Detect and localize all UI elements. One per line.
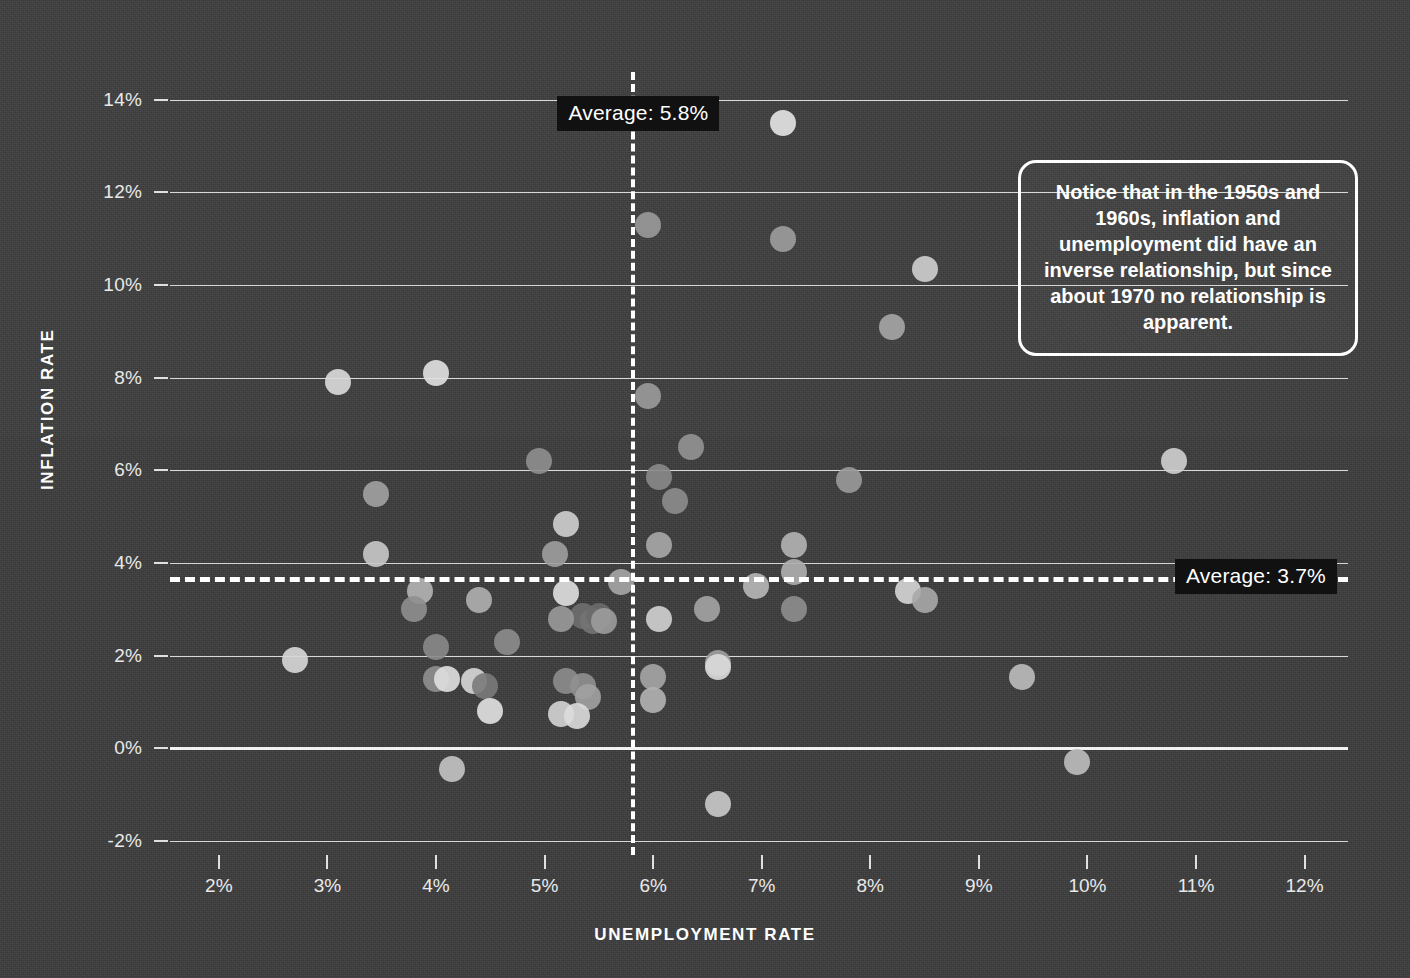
x-tick-mark: [544, 855, 546, 869]
data-point: [705, 791, 731, 817]
data-point: [526, 448, 552, 474]
unemployment-average-line: [631, 72, 635, 855]
data-point: [635, 212, 661, 238]
data-point: [548, 606, 574, 632]
data-point: [836, 467, 862, 493]
x-axis-tick-label: 8%: [857, 875, 884, 897]
data-point: [477, 698, 503, 724]
data-point: [363, 481, 389, 507]
inflation-average-label: Average: 3.7%: [1175, 559, 1337, 594]
x-axis-tick-label: 12%: [1286, 875, 1324, 897]
x-tick-mark: [652, 855, 654, 869]
y-tick-mark: [154, 99, 168, 101]
x-axis-tick-label: 9%: [965, 875, 992, 897]
annotation-callout: Notice that in the 1950s and 1960s, infl…: [1018, 160, 1358, 356]
x-tick-mark: [1304, 855, 1306, 869]
data-point: [401, 596, 427, 622]
y-tick-mark: [154, 284, 168, 286]
y-tick-mark: [154, 469, 168, 471]
y-tick-mark: [154, 840, 168, 842]
inflation-average-line: [170, 577, 1348, 582]
y-tick-mark: [154, 377, 168, 379]
data-point: [646, 532, 672, 558]
x-tick-mark: [869, 855, 871, 869]
y-tick-mark: [154, 655, 168, 657]
data-point: [912, 587, 938, 613]
data-point: [363, 541, 389, 567]
data-point: [781, 596, 807, 622]
gridline-neg2pct: [170, 841, 1348, 842]
data-point: [635, 383, 661, 409]
y-axis-tick-label: 12%: [60, 181, 142, 203]
y-tick-mark: [154, 562, 168, 564]
data-point: [423, 360, 449, 386]
data-point: [770, 110, 796, 136]
data-point: [640, 664, 666, 690]
data-point: [553, 511, 579, 537]
data-point: [662, 488, 688, 514]
data-point: [494, 629, 520, 655]
x-axis-tick-label: 4%: [422, 875, 449, 897]
data-point: [646, 606, 672, 632]
data-point: [466, 587, 492, 613]
phillips-curve-scatter-chart: -2%0%2%4%6%8%10%12%14%2%3%4%5%6%7%8%9%10…: [0, 0, 1410, 978]
x-tick-mark: [1086, 855, 1088, 869]
y-axis-tick-label: 10%: [60, 274, 142, 296]
data-point: [912, 256, 938, 282]
y-axis-tick-label: -2%: [60, 830, 142, 852]
data-point: [472, 673, 498, 699]
y-axis-tick-label: 8%: [60, 367, 142, 389]
data-point: [770, 226, 796, 252]
data-point: [678, 434, 704, 460]
data-point: [553, 580, 579, 606]
x-axis-tick-label: 7%: [748, 875, 775, 897]
data-point: [282, 647, 308, 673]
y-axis-tick-label: 4%: [60, 552, 142, 574]
x-tick-mark: [761, 855, 763, 869]
y-axis-tick-label: 14%: [60, 89, 142, 111]
x-axis-tick-label: 5%: [531, 875, 558, 897]
y-axis-tick-label: 2%: [60, 645, 142, 667]
gridline-14pct: [170, 100, 1348, 101]
data-point: [646, 464, 672, 490]
data-point: [1064, 749, 1090, 775]
x-axis-tick-label: 10%: [1068, 875, 1106, 897]
data-point: [423, 634, 449, 660]
x-axis-tick-label: 3%: [314, 875, 341, 897]
unemployment-average-label: Average: 5.8%: [557, 96, 719, 131]
x-tick-mark: [978, 855, 980, 869]
data-point: [434, 666, 460, 692]
data-point: [439, 756, 465, 782]
x-axis-tick-label: 11%: [1178, 875, 1215, 897]
data-point: [694, 596, 720, 622]
gridline-4pct: [170, 563, 1348, 564]
x-tick-mark: [218, 855, 220, 869]
y-axis-tick-label: 6%: [60, 459, 142, 481]
gridline-0pct: [170, 747, 1348, 750]
x-tick-mark: [435, 855, 437, 869]
y-tick-mark: [154, 747, 168, 749]
y-axis-tick-label: 0%: [60, 737, 142, 759]
data-point: [1161, 448, 1187, 474]
x-tick-mark: [326, 855, 328, 869]
data-point: [705, 654, 731, 680]
data-point: [640, 687, 666, 713]
data-point: [325, 369, 351, 395]
x-tick-mark: [1195, 855, 1197, 869]
data-point: [542, 541, 568, 567]
data-point: [879, 314, 905, 340]
data-point: [564, 703, 590, 729]
gridline-2pct: [170, 656, 1348, 657]
data-point: [781, 532, 807, 558]
x-axis-tick-label: 6%: [639, 875, 666, 897]
data-point: [1009, 664, 1035, 690]
x-axis-tick-label: 2%: [205, 875, 232, 897]
y-tick-mark: [154, 191, 168, 193]
data-point: [591, 608, 617, 634]
